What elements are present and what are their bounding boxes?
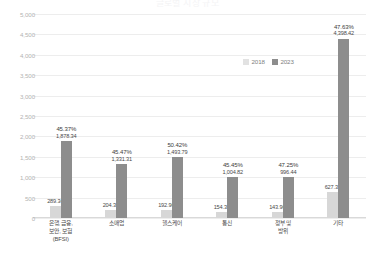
bar-value-label: 1,331.31	[111, 157, 132, 163]
y-axis-tick-label: 2,000	[5, 133, 35, 140]
bar-pair: 627.334,398.4247.63%	[311, 14, 367, 218]
y-axis-tick-label: 4,000	[5, 51, 35, 58]
bar-group: 154.361,004.8245.45%	[200, 14, 256, 218]
y-axis-tick-label: 2,500	[5, 113, 35, 120]
y-axis-tick-label: 0	[5, 215, 35, 222]
legend: 2018 2023	[243, 58, 294, 65]
bar-2018-헬스케어[interactable]: 192.96	[161, 210, 172, 218]
bar-2023-소매업[interactable]: 1,331.3145.47%	[116, 164, 127, 218]
y-axis-tick-label: 3,000	[5, 92, 35, 99]
bar-value-label: 4,398.42	[333, 31, 354, 37]
bar-2018-정부 및 방위[interactable]: 143.96	[272, 212, 283, 218]
bar-groups: 289.341,878.3445.37%204.361,331.3145.47%…	[33, 14, 366, 218]
y-axis-tick-label: 5,000	[5, 11, 35, 18]
bar-chart: 글로벌 시장 규모 289.341,878.3445.37%204.361,33…	[0, 0, 375, 257]
legend-item-2018[interactable]: 2018	[243, 58, 265, 65]
bar-group: 204.361,331.3145.47%	[89, 14, 145, 218]
bar-group: 143.96996.4447.25%	[255, 14, 311, 218]
bar-2018-소매업[interactable]: 204.36	[105, 210, 116, 218]
legend-item-2023[interactable]: 2023	[272, 58, 294, 65]
bar-value-label: 996.44	[280, 170, 296, 176]
y-axis-tick-label: 3,500	[5, 72, 35, 79]
bar-2023-기타[interactable]: 4,398.4247.63%	[338, 39, 349, 218]
legend-label-2023: 2023	[280, 58, 293, 65]
page-title: 글로벌 시장 규모	[0, 0, 375, 9]
legend-swatch-icon-2023	[272, 59, 278, 65]
bar-value-label: 1,493.79	[167, 150, 188, 156]
plot-area: 289.341,878.3445.37%204.361,331.3145.47%…	[33, 14, 366, 218]
bar-2023-헬스케어[interactable]: 1,493.7950.42%	[172, 157, 183, 218]
legend-label-2018: 2018	[252, 58, 265, 65]
x-axis-label-기타: 기타	[311, 220, 367, 243]
bar-2023-은행, 금융, 보안, 보험 (BFSI)[interactable]: 1,878.3445.37%	[61, 141, 72, 218]
x-axis-labels: 은행, 금융, 보안, 보험 (BFSI)소매업헬스케어통신정부 및 방위기타	[33, 220, 366, 243]
growth-percent-label: 47.63%	[334, 24, 354, 30]
growth-percent-label: 45.37%	[56, 126, 76, 132]
bar-2018-은행, 금융, 보안, 보험 (BFSI)[interactable]: 289.34	[50, 206, 61, 218]
growth-percent-label: 45.47%	[112, 149, 132, 155]
bar-2023-정부 및 방위[interactable]: 996.4447.25%	[283, 177, 294, 218]
chart-title-strip: 글로벌 시장 규모	[0, 0, 375, 9]
bar-pair: 154.361,004.8245.45%	[200, 14, 256, 218]
bar-value-label: 1,878.34	[56, 134, 77, 140]
bar-pair: 289.341,878.3445.37%	[33, 14, 89, 218]
legend-swatch-icon-2018	[243, 59, 249, 65]
bar-pair: 143.96996.4447.25%	[255, 14, 311, 218]
y-axis-tick-label: 1,000	[5, 174, 35, 181]
growth-percent-label: 50.42%	[167, 142, 187, 148]
y-axis-tick-label: 500	[5, 194, 35, 201]
bar-2018-통신[interactable]: 154.36	[216, 212, 227, 218]
x-axis-label-헬스케어: 헬스케어	[144, 220, 200, 243]
y-axis-tick-label: 1,500	[5, 153, 35, 160]
y-axis-tick-label: 4,500	[5, 31, 35, 38]
growth-percent-label: 45.45%	[223, 162, 243, 168]
bar-group: 192.961,493.7950.42%	[144, 14, 200, 218]
x-axis-label-은행, 금융, 보안, 보험 (BFSI): 은행, 금융, 보안, 보험 (BFSI)	[33, 220, 89, 243]
bar-pair: 204.361,331.3145.47%	[89, 14, 145, 218]
bar-2018-기타[interactable]: 627.33	[327, 192, 338, 218]
x-axis-label-정부 및 방위: 정부 및 방위	[255, 220, 311, 243]
bar-value-label: 1,004.82	[222, 170, 243, 176]
bar-2023-통신[interactable]: 1,004.8245.45%	[227, 177, 238, 218]
bar-group: 289.341,878.3445.37%	[33, 14, 89, 218]
gridline	[33, 218, 366, 219]
x-axis-label-통신: 통신	[200, 220, 256, 243]
bar-group: 627.334,398.4247.63%	[311, 14, 367, 218]
growth-percent-label: 47.25%	[278, 162, 298, 168]
x-axis-label-소매업: 소매업	[89, 220, 145, 243]
bar-pair: 192.961,493.7950.42%	[144, 14, 200, 218]
